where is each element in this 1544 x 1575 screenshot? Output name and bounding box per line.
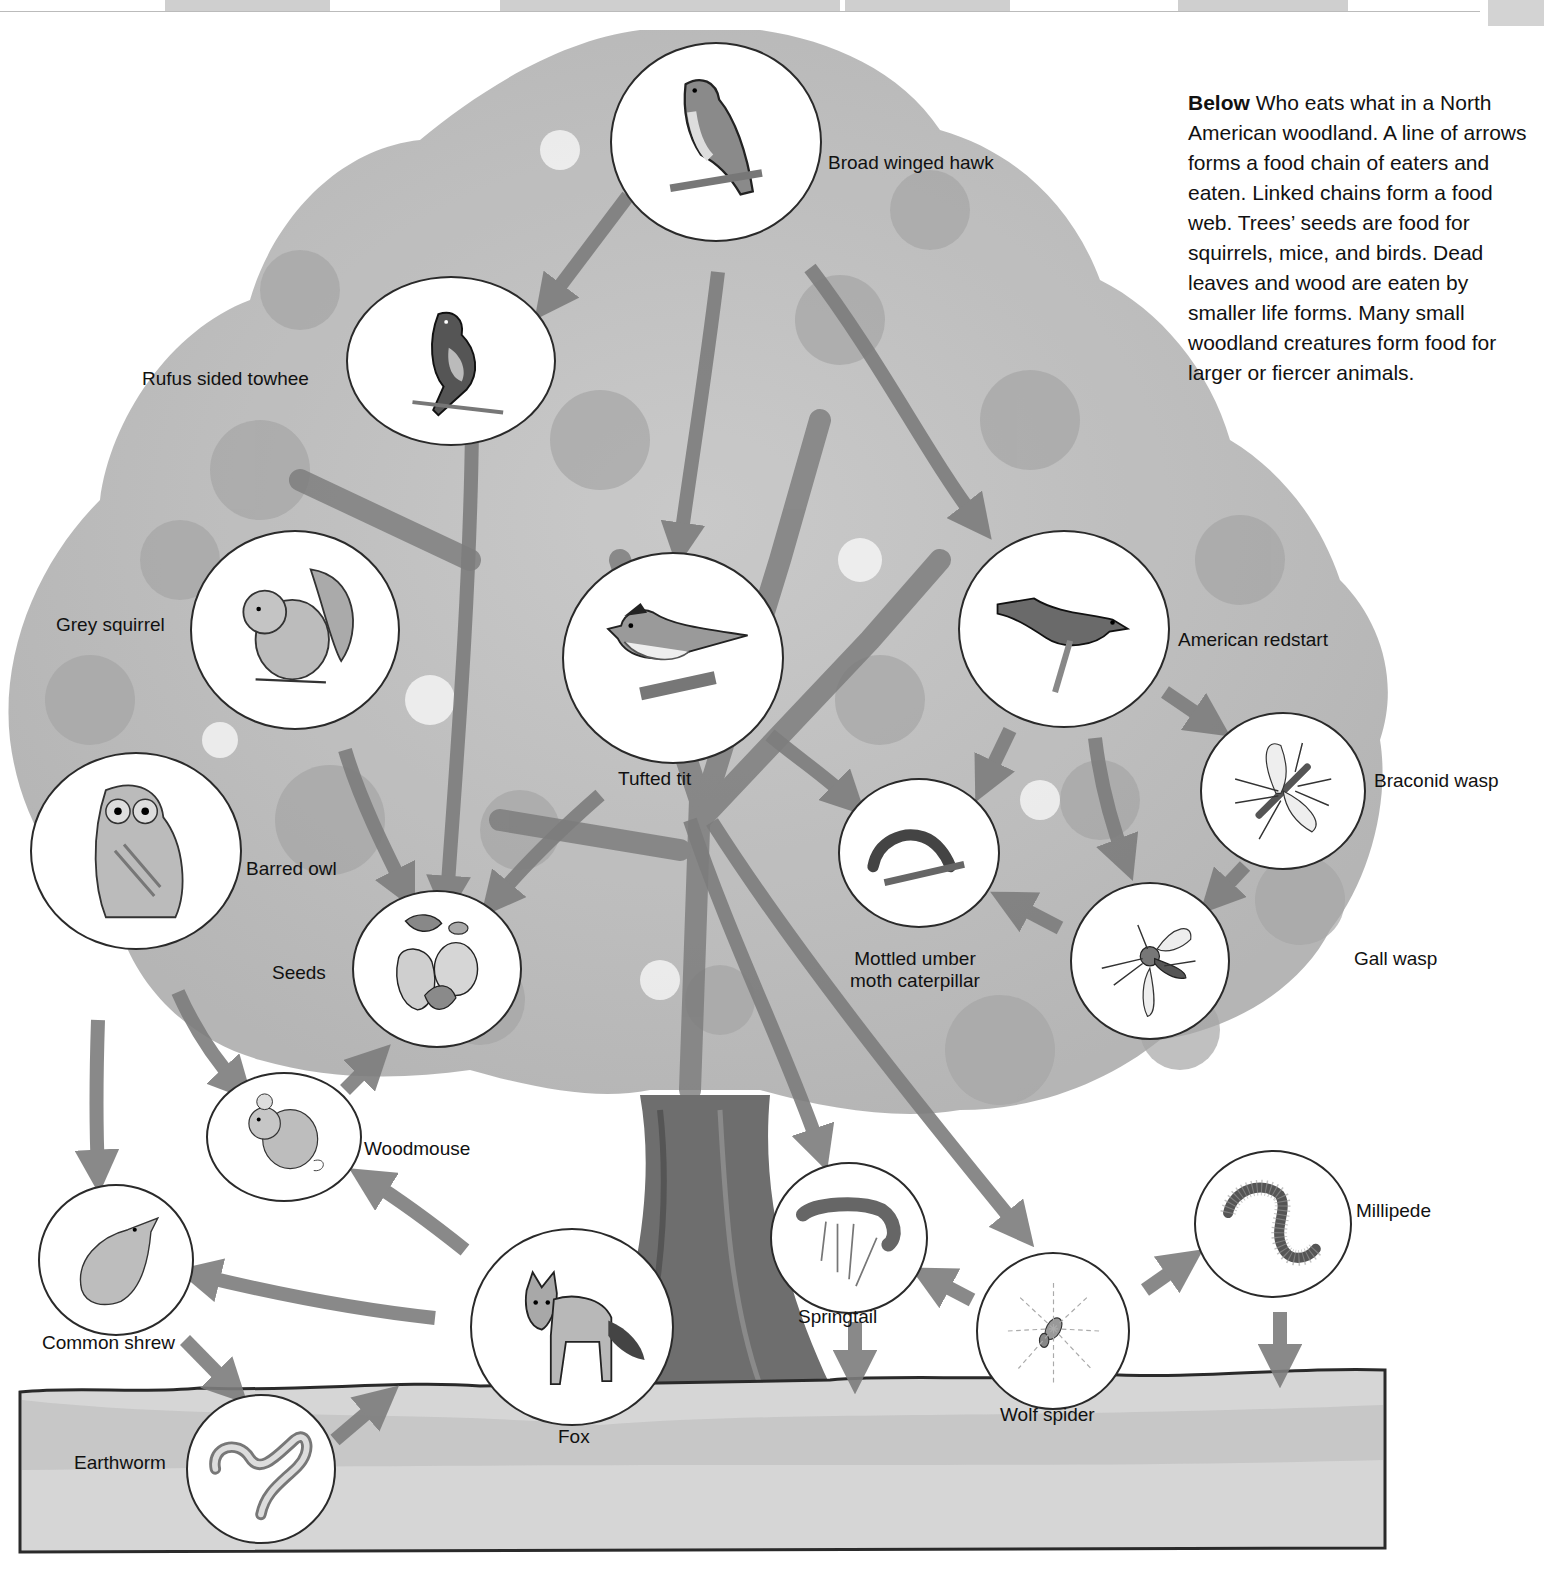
hawk-icon bbox=[635, 66, 797, 219]
caption-lead: Below bbox=[1188, 91, 1250, 114]
towhee-icon bbox=[371, 296, 532, 425]
label-springtail: Springtail bbox=[798, 1306, 877, 1328]
label-braconid-wasp: Braconid wasp bbox=[1374, 770, 1499, 792]
label-millipede: Millipede bbox=[1356, 1200, 1431, 1222]
node-tufted-tit bbox=[562, 552, 784, 764]
node-grey-squirrel bbox=[190, 530, 400, 730]
caption-text: Who eats what in a North American woodla… bbox=[1188, 91, 1527, 384]
shrew-icon bbox=[57, 1202, 176, 1317]
squirrel-icon bbox=[215, 554, 376, 707]
node-rufus-sided-towhee bbox=[346, 276, 556, 446]
millipede-icon bbox=[1213, 1168, 1333, 1280]
arrow-fox-to-shrew bbox=[198, 1275, 435, 1318]
node-woodmouse bbox=[206, 1072, 362, 1202]
label-gall-wasp: Gall wasp bbox=[1354, 948, 1437, 970]
label-earthworm: Earthworm bbox=[74, 1452, 166, 1474]
fox-icon bbox=[494, 1251, 650, 1402]
owl-icon bbox=[55, 775, 217, 926]
redstart-icon bbox=[983, 553, 1145, 704]
node-seeds bbox=[352, 890, 522, 1048]
label-woodmouse: Woodmouse bbox=[364, 1138, 470, 1160]
earthworm-icon bbox=[204, 1412, 318, 1526]
label-common-shrew: Common shrew bbox=[42, 1332, 175, 1354]
gall-wasp-icon bbox=[1089, 901, 1211, 1021]
label-seeds: Seeds bbox=[272, 962, 326, 984]
mouse-icon bbox=[225, 1088, 344, 1186]
node-broad-winged-hawk bbox=[610, 42, 822, 242]
node-american-redstart bbox=[958, 530, 1170, 728]
label-wolf-spider: Wolf spider bbox=[1000, 1404, 1095, 1426]
node-millipede bbox=[1194, 1150, 1352, 1298]
label-grey-squirrel: Grey squirrel bbox=[56, 614, 165, 636]
spider-icon bbox=[995, 1271, 1112, 1391]
node-gall-wasp bbox=[1070, 882, 1230, 1040]
node-barred-owl bbox=[30, 752, 242, 950]
label-line: moth caterpillar bbox=[850, 970, 980, 991]
node-common-shrew bbox=[38, 1184, 194, 1336]
caterpillar-icon bbox=[857, 796, 980, 910]
node-mottled-umber-moth-caterpillar bbox=[838, 778, 1000, 928]
acorn-icon bbox=[372, 909, 501, 1029]
label-rufus-sided-towhee: Rufus sided towhee bbox=[142, 368, 309, 390]
node-fox bbox=[470, 1228, 674, 1426]
label-barred-owl: Barred owl bbox=[246, 858, 337, 880]
label-tufted-tit: Tufted tit bbox=[618, 768, 691, 790]
tufted-tit-icon bbox=[588, 577, 758, 739]
arrow-owl-to-shrew bbox=[97, 1020, 99, 1172]
springtail-icon bbox=[789, 1180, 909, 1295]
label-fox: Fox bbox=[558, 1426, 590, 1448]
arrow-fox-to-woodmouse bbox=[368, 1180, 465, 1250]
label-broad-winged-hawk: Broad winged hawk bbox=[828, 152, 994, 174]
node-wolf-spider bbox=[976, 1252, 1130, 1410]
node-braconid-wasp bbox=[1200, 712, 1366, 870]
node-springtail bbox=[770, 1162, 928, 1314]
label-line: Mottled umber bbox=[854, 948, 975, 969]
label-american-redstart: American redstart bbox=[1178, 629, 1328, 651]
label-mottled-umber-moth-caterpillar: Mottled umbermoth caterpillar bbox=[836, 948, 994, 992]
node-earthworm bbox=[186, 1394, 336, 1544]
arrow-shrew-to-earthworm bbox=[185, 1340, 232, 1388]
arrow-wolfspider-to-millipede bbox=[1145, 1262, 1185, 1290]
braconid-wasp-icon bbox=[1220, 731, 1346, 851]
arrow-wolfspider-to-springtail bbox=[930, 1278, 972, 1300]
figure-caption: Below Who eats what in a North American … bbox=[1188, 88, 1538, 388]
